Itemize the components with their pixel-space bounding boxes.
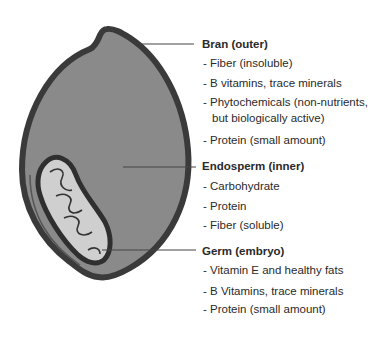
bran-item-continuation: but biologically active) xyxy=(212,111,325,125)
bran-item: - Fiber (insoluble) xyxy=(203,56,292,70)
germ-heading: Germ (embryo) xyxy=(202,244,284,258)
endosperm-item: - Carbohydrate xyxy=(203,179,280,193)
bran-heading: Bran (outer) xyxy=(202,37,268,51)
bran-item: - Phytochemicals (non-nutrients, xyxy=(203,95,368,109)
endosperm-heading: Endosperm (inner) xyxy=(202,159,304,173)
endosperm-item: - Protein xyxy=(203,199,246,213)
germ-item: - Vitamin E and healthy fats xyxy=(203,263,343,277)
germ-item: - B Vitamins, trace minerals xyxy=(203,284,343,298)
germ-item: - Protein (small amount) xyxy=(203,302,326,316)
endosperm-item: - Fiber (soluble) xyxy=(203,218,284,232)
bran-item: - B vitamins, trace minerals xyxy=(203,76,342,90)
bran-item: - Protein (small amount) xyxy=(203,133,326,147)
